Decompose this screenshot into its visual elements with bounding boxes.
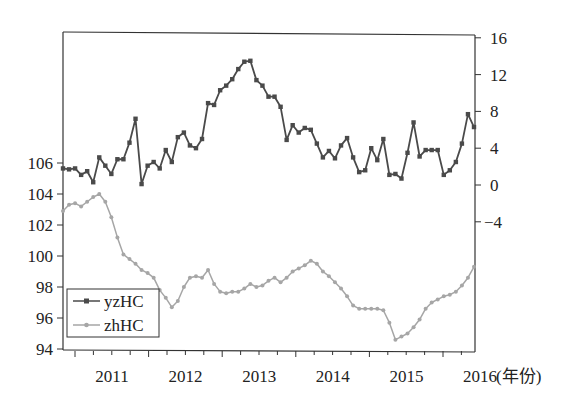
legend: yzHC zhHC [67, 289, 159, 337]
data-point [375, 307, 379, 311]
data-point [212, 103, 216, 107]
left-tick-label: 106 [28, 154, 54, 173]
data-point [140, 268, 144, 272]
data-point [212, 282, 216, 286]
data-point [254, 285, 258, 289]
data-point [224, 83, 228, 87]
data-point [67, 203, 71, 207]
data-point [127, 140, 131, 144]
data-point [284, 138, 288, 142]
data-point [327, 274, 331, 278]
data-point [248, 282, 252, 286]
data-point [290, 123, 294, 127]
data-point [206, 101, 210, 105]
dual-axis-line-chart: 106104102100989694 1612840−4 20112012201… [0, 0, 568, 417]
data-point [109, 215, 113, 219]
data-point [454, 160, 458, 164]
data-point [405, 151, 409, 155]
data-point [278, 105, 282, 109]
legend-label: yzHC [104, 292, 144, 311]
data-point [351, 155, 355, 159]
data-point [188, 276, 192, 280]
data-point [448, 293, 452, 297]
data-point [466, 112, 470, 116]
data-point [291, 270, 295, 274]
data-point [472, 125, 476, 129]
data-point [182, 130, 186, 134]
data-point [194, 146, 198, 150]
x-tick-label: 2014 [316, 367, 351, 386]
data-point [448, 168, 452, 172]
data-point [345, 136, 349, 140]
data-point [315, 141, 319, 145]
data-point [85, 200, 89, 204]
data-point [303, 126, 307, 130]
data-point [279, 280, 283, 284]
data-point [411, 120, 415, 124]
data-point [230, 77, 234, 81]
x-axis-unit-label: (年份) [496, 367, 541, 386]
data-point [91, 195, 95, 199]
data-point [363, 307, 367, 311]
data-point [200, 276, 204, 280]
data-point [466, 276, 470, 280]
data-point [357, 170, 361, 174]
data-point [145, 163, 149, 167]
data-point [176, 299, 180, 303]
data-point [91, 180, 95, 184]
data-point [176, 135, 180, 139]
data-point [115, 235, 119, 239]
data-point [248, 59, 252, 63]
data-point [418, 318, 422, 322]
data-point [73, 166, 77, 170]
data-point [272, 94, 276, 98]
right-tick-label: 0 [490, 176, 499, 195]
data-point [399, 335, 403, 339]
data-point [139, 182, 143, 186]
x-axis: 201120122013201420152016(年份) [75, 351, 541, 386]
data-point [297, 266, 301, 270]
data-point [339, 143, 343, 147]
data-point [236, 290, 240, 294]
data-point [230, 290, 234, 294]
left-y-axis: 106104102100989694 [28, 154, 64, 359]
data-point [333, 280, 337, 284]
left-tick-label: 94 [36, 340, 54, 359]
data-point [309, 259, 313, 263]
data-point [333, 156, 337, 160]
left-tick-label: 100 [28, 247, 54, 266]
data-point [121, 252, 125, 256]
data-point [309, 128, 313, 132]
data-point [381, 308, 385, 312]
legend-label: zhHC [104, 316, 144, 335]
data-point [363, 168, 367, 172]
data-point [393, 338, 397, 342]
data-point [236, 67, 240, 71]
data-point [393, 172, 397, 176]
data-point [387, 173, 391, 177]
circle-marker-icon [84, 323, 89, 328]
data-point [97, 192, 101, 196]
data-point [182, 285, 186, 289]
right-tick-label: 12 [490, 66, 507, 85]
data-point [188, 143, 192, 147]
data-point [375, 158, 379, 162]
data-point [412, 325, 416, 329]
data-point [303, 263, 307, 267]
data-point [218, 290, 222, 294]
left-tick-label: 104 [28, 185, 54, 204]
right-tick-label: 4 [490, 139, 499, 158]
data-point [460, 283, 464, 287]
data-point [297, 130, 301, 134]
data-point [127, 257, 131, 261]
data-point [357, 307, 361, 311]
data-point [436, 148, 440, 152]
data-point [406, 332, 410, 336]
x-tick-label: 2015 [389, 367, 423, 386]
data-point [321, 270, 325, 274]
data-point [327, 149, 331, 153]
data-point [369, 146, 373, 150]
data-point [170, 305, 174, 309]
x-tick-label: 2013 [242, 367, 276, 386]
data-point [345, 294, 349, 298]
